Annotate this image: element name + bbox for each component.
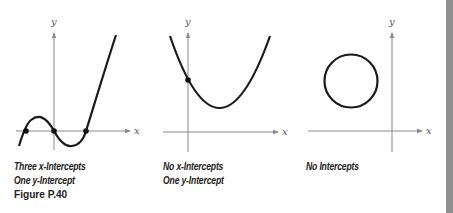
y-axis-label: y xyxy=(388,16,395,27)
caption-cubic-line-1: Three x-Intercepts xyxy=(14,160,86,172)
x-axis-label: x xyxy=(426,125,432,136)
y-intercept-point xyxy=(185,77,191,83)
caption-parabola-line-1: No x-Intercepts xyxy=(163,160,223,172)
x-axis-label: x xyxy=(282,126,288,137)
caption-parabola-line-2: One y-Intercept xyxy=(163,174,224,186)
parabola-curve xyxy=(170,36,270,108)
circle-curve xyxy=(325,55,378,108)
y-axis-label: y xyxy=(50,16,57,27)
x-intercept-point xyxy=(83,128,89,134)
caption-circle-line-1: No Intercepts xyxy=(306,160,359,172)
x-axis-label: x xyxy=(134,125,140,136)
cubic-curve xyxy=(19,35,116,146)
origin-intercept-point xyxy=(51,128,57,134)
y-axis-label: y xyxy=(184,16,191,27)
graph-cubic: x y xyxy=(16,16,140,150)
graph-circle: x y xyxy=(308,16,432,152)
graph-parabola: x y xyxy=(163,16,288,152)
x-intercept-point xyxy=(23,128,29,134)
caption-cubic-line-2: One y-Intercept xyxy=(14,174,75,186)
figure-label: Figure P.40 xyxy=(14,188,67,200)
page-edge-bar xyxy=(446,0,453,213)
